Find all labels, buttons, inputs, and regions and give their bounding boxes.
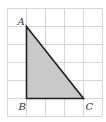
vertex-label-a: A	[17, 16, 25, 27]
vertex-label-c: C	[86, 101, 94, 112]
grid-diagram: A B C	[0, 0, 106, 122]
vertex-label-b: B	[18, 101, 26, 112]
